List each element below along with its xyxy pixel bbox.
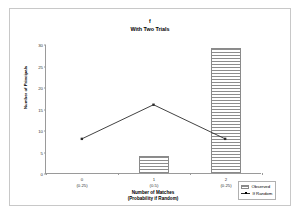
data-point-marker [224,138,226,140]
x-axis-tick-label: 2(0.25) [220,177,231,189]
line-path [82,105,225,139]
hatched-bar-swatch-icon [241,185,249,189]
y-axis-tick-label: 5 [41,150,43,155]
x-tick-probability: (0.25) [220,183,231,189]
x-tick-probability: (0.5) [150,183,159,189]
x-axis-tick-mark [190,173,191,175]
x-axis-title: Number of Matches (Probability if Random… [45,190,261,203]
y-axis-tick-label: 25 [38,64,43,69]
chart-subtitle: With Two Trials [10,26,290,32]
legend-label-if-random: If Random [253,191,273,196]
y-axis-tick-label: 20 [38,86,43,91]
y-axis-tick-label: 10 [38,129,43,134]
chart-frame: f With Two Trials Number of Principals 0… [9,8,291,206]
legend-item-if-random: If Random [241,190,272,197]
y-axis-tick-label: 0 [41,172,43,177]
y-axis-title: Number of Principals [23,66,28,109]
legend-label-observed: Observed [252,184,271,189]
data-point-marker [152,104,154,106]
plot-area: 051015202530 0(0.25)1(0.5)2(0.25) [45,45,261,174]
x-axis-title-line2: (Probability if Random) [45,196,261,202]
chart-legend: Observed If Random [238,181,276,200]
line-marker-swatch-icon [241,191,250,195]
x-axis-tick-mark [46,173,47,175]
y-axis-tick-label: 15 [38,107,43,112]
x-axis-tick-mark [262,173,263,175]
y-axis-tick-label: 30 [38,43,43,48]
x-axis-tick-mark [118,173,119,175]
x-tick-probability: (0.25) [76,183,87,189]
x-axis-tick-label: 1(0.5) [150,177,159,189]
x-axis-tick-label: 0(0.25) [76,177,87,189]
data-point-marker [81,138,83,140]
line-series-if-random [46,45,261,173]
chart-title: f [10,18,290,24]
